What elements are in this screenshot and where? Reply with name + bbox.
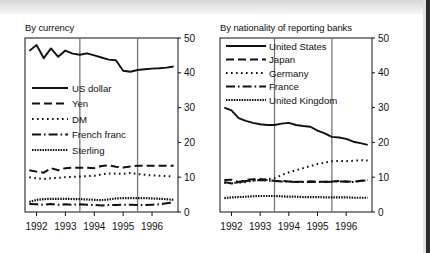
legend-label-dm: DM [72, 114, 87, 125]
y-tick-label: 20 [184, 137, 196, 148]
panel-by-currency: By currency 0102030405019921993199419951… [0, 0, 212, 253]
plot-frame [25, 38, 178, 212]
series-line-sterling [29, 198, 173, 202]
series-line-french-franc [29, 202, 173, 205]
legend-label-french-franc: French franc [72, 129, 126, 140]
y-tick-label: 40 [184, 67, 196, 78]
figure-root: By currency 0102030405019921993199419951… [0, 0, 430, 253]
y-tick-label: 50 [378, 33, 390, 44]
x-tick-label: 1995 [112, 221, 135, 232]
page-edge-dark [426, 0, 430, 253]
legend-label-yen: Yen [72, 98, 88, 109]
y-tick-label: 0 [184, 207, 190, 218]
series-group [224, 108, 367, 198]
x-tick-label: 1993 [54, 221, 77, 232]
x-tick-label: 1993 [249, 221, 272, 232]
x-tick-label: 1992 [25, 221, 48, 232]
legend-label-us-dollar: US dollar [72, 83, 112, 94]
legend-label-france: France [269, 81, 299, 92]
series-line-us-dollar [29, 45, 173, 72]
x-tick-label: 1996 [141, 221, 164, 232]
series-line-germany [224, 160, 367, 183]
series-line-united-states [224, 108, 367, 145]
y-tick-label: 50 [184, 33, 196, 44]
panel-by-nationality: By nationality of reporting banks 010203… [212, 0, 417, 253]
x-tick-label: 1994 [83, 221, 106, 232]
series-group [29, 45, 173, 205]
legend-label-germany: Germany [269, 68, 309, 79]
legend-label-sterling: Sterling [72, 145, 105, 156]
y-tick-label: 40 [378, 67, 390, 78]
x-tick-label: 1992 [220, 221, 243, 232]
x-tick-label: 1995 [306, 221, 329, 232]
y-tick-label: 30 [378, 102, 390, 113]
y-tick-label: 0 [378, 207, 384, 218]
chart-by-currency: 0102030405019921993199419951996US dollar… [0, 30, 212, 250]
y-tick-label: 10 [184, 172, 196, 183]
legend: US dollarYenDMFrench francSterling [32, 83, 126, 156]
y-tick-label: 20 [378, 137, 390, 148]
series-line-dm [29, 173, 173, 179]
legend-label-japan: Japan [269, 54, 295, 65]
legend-label-united-kingdom: United Kingdom [269, 95, 337, 106]
legend: United StatesJapanGermanyFranceUnited Ki… [226, 41, 337, 106]
y-tick-label: 30 [184, 102, 196, 113]
x-tick-label: 1994 [278, 221, 301, 232]
x-tick-label: 1996 [335, 221, 358, 232]
series-line-yen [29, 165, 173, 172]
series-line-united-kingdom [224, 196, 367, 198]
chart-by-nationality: 0102030405019921993199419951996United St… [212, 30, 417, 250]
y-tick-label: 10 [378, 172, 390, 183]
legend-label-united-states: United States [269, 41, 327, 52]
